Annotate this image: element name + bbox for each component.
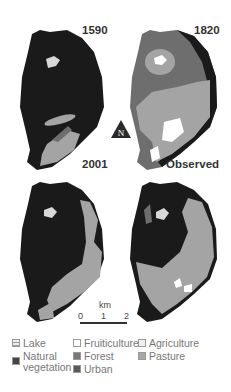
scale-bar-line xyxy=(80,322,127,324)
scale-unit: km xyxy=(99,300,111,310)
natural-vegetation-swatch xyxy=(12,357,20,365)
urban-swatch xyxy=(73,365,81,373)
agriculture-swatch xyxy=(138,339,146,347)
legend-item-forest: Forest xyxy=(73,351,114,362)
legend-item-pasture: Pasture xyxy=(138,351,185,362)
map-panel-1820: 1820 xyxy=(122,22,231,172)
panel-title-2001: 2001 xyxy=(82,158,108,170)
lake-swatch xyxy=(12,339,20,347)
legend-label-fruiticulture: Fruiticulture xyxy=(84,338,139,349)
legend-label-urban: Urban xyxy=(84,364,113,375)
legend-item-natural-vegetation: Natural vegetation xyxy=(12,351,71,373)
map-panel-1590: 1590 xyxy=(12,22,122,172)
fruiticulture-swatch xyxy=(73,339,81,347)
panel-title-observed: Observed xyxy=(166,158,219,170)
legend: Lake Natural vegetation Fruiticulture Fo… xyxy=(12,338,227,388)
legend-label-lake: Lake xyxy=(23,338,46,349)
map-panel-observed: Observed xyxy=(122,172,231,322)
pasture-swatch xyxy=(138,352,146,360)
legend-label-forest: Forest xyxy=(84,351,114,362)
legend-item-urban: Urban xyxy=(73,364,113,375)
scale-bar: km 0 1 2 xyxy=(75,300,135,322)
island-map-observed xyxy=(122,172,231,322)
forest-swatch xyxy=(73,352,81,360)
legend-label-natural-vegetation: Natural vegetation xyxy=(23,351,71,373)
legend-item-lake: Lake xyxy=(12,338,46,349)
legend-item-fruiticulture: Fruiticulture xyxy=(73,338,139,349)
panel-title-1590: 1590 xyxy=(82,24,108,36)
north-arrow: N xyxy=(110,118,132,140)
scale-tick-1: 1 xyxy=(101,311,106,321)
legend-item-agriculture: Agriculture xyxy=(138,338,199,349)
north-arrow-label: N xyxy=(118,128,125,138)
island-map-1590 xyxy=(12,22,122,172)
island-map-1820 xyxy=(122,22,231,172)
legend-label-pasture: Pasture xyxy=(149,351,185,362)
scale-tick-0: 0 xyxy=(78,311,83,321)
scale-tick-2: 2 xyxy=(124,311,129,321)
north-arrow-icon: N xyxy=(110,118,132,140)
legend-label-agriculture: Agriculture xyxy=(149,338,199,349)
legend-label-line2: vegetation xyxy=(23,361,71,373)
panel-title-1820: 1820 xyxy=(194,24,220,36)
